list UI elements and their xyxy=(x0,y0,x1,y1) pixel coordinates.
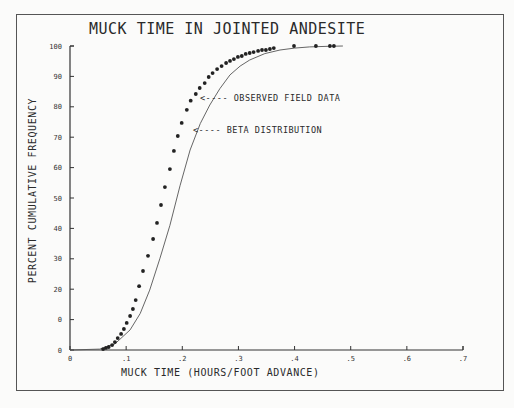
observed-data-point xyxy=(220,64,224,68)
observed-data-point xyxy=(332,44,336,48)
observed-data-point xyxy=(264,48,268,52)
x-tick-label: .7 xyxy=(459,355,467,363)
observed-data-point xyxy=(168,167,172,171)
beta-distribution-line xyxy=(70,46,343,350)
y-tick-label: 70 xyxy=(54,134,62,142)
observed-data-point xyxy=(146,254,150,258)
observed-data-point xyxy=(194,92,198,96)
observed-data-point xyxy=(180,121,184,125)
x-tick-label: .4 xyxy=(290,355,298,363)
y-tick-label: 90 xyxy=(54,73,62,81)
observed-data-point xyxy=(244,52,248,56)
observed-data-point xyxy=(252,50,256,54)
observed-data-point xyxy=(163,185,167,189)
observed-data-point xyxy=(155,221,159,225)
observed-data-point xyxy=(172,149,176,153)
observed-data-point xyxy=(207,75,211,79)
observed-data-point xyxy=(260,48,264,52)
y-axis-label: PERCENT CUMULATIVE FREQUENCY xyxy=(27,71,38,311)
observed-data-point xyxy=(203,81,207,85)
observed-data-point xyxy=(128,314,132,318)
observed-data-point xyxy=(215,67,219,71)
x-tick-label: .6 xyxy=(403,355,411,363)
observed-data-point xyxy=(211,71,215,75)
x-tick-label: .3 xyxy=(234,355,242,363)
y-tick-label: 0 xyxy=(58,347,62,355)
plot-area: 0020304050607080901000.1.2.3.4.5.6.7 xyxy=(0,0,514,408)
y-tick-label: 80 xyxy=(54,103,62,111)
observed-data-point xyxy=(185,108,189,112)
observed-data-point xyxy=(141,269,145,273)
observed-data-point xyxy=(134,298,138,302)
y-tick-label: 50 xyxy=(54,195,62,203)
observed-data-point xyxy=(131,307,135,311)
observed-data-point xyxy=(198,86,202,90)
observed-data-point xyxy=(268,47,272,51)
x-tick-label: .2 xyxy=(178,355,186,363)
observed-data-point xyxy=(110,343,114,347)
observed-data-point xyxy=(189,99,193,103)
observed-data-point xyxy=(137,284,141,288)
observed-data-point xyxy=(232,57,236,61)
y-tick-label: 30 xyxy=(54,255,62,263)
observed-data-point xyxy=(314,44,318,48)
observed-data-point xyxy=(256,49,260,53)
observed-data-point xyxy=(224,61,228,65)
observed-data-point xyxy=(272,46,276,50)
observed-data-point xyxy=(116,336,120,340)
annotation-observed: <---- OBSERVED FIELD DATA xyxy=(200,93,340,103)
y-tick-label: 60 xyxy=(54,164,62,172)
x-tick-label: 0 xyxy=(68,355,72,363)
y-tick-label: 40 xyxy=(54,225,62,233)
observed-data-point xyxy=(328,44,332,48)
observed-data-point xyxy=(236,55,240,59)
observed-data-point xyxy=(113,340,117,344)
x-tick-label: .1 xyxy=(122,355,130,363)
x-tick-label: .5 xyxy=(346,355,354,363)
observed-data-point xyxy=(292,44,296,48)
observed-data-point xyxy=(151,237,155,241)
observed-data-point xyxy=(228,59,232,63)
observed-data-point xyxy=(240,54,244,58)
x-axis-label: MUCK TIME (HOURS/FOOT ADVANCE) xyxy=(121,367,320,378)
observed-data-point xyxy=(176,134,180,138)
observed-data-point xyxy=(122,327,126,331)
annotation-beta: <---- BETA DISTRIBUTION xyxy=(193,125,322,135)
observed-data-point xyxy=(248,51,252,55)
observed-data-point xyxy=(107,345,111,349)
observed-data-point xyxy=(159,203,163,207)
observed-data-point xyxy=(125,321,129,325)
observed-data-point xyxy=(119,332,123,336)
y-tick-label: 0 xyxy=(58,316,62,324)
chart-title: MUCK TIME IN JOINTED ANDESITE xyxy=(89,20,365,38)
y-tick-label: 100 xyxy=(49,43,62,51)
y-tick-label: 20 xyxy=(54,286,62,294)
